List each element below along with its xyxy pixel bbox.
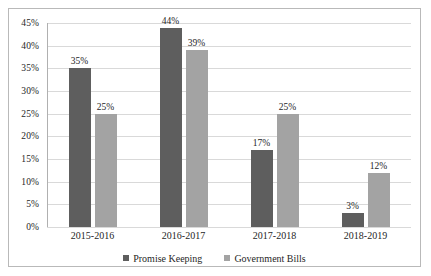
- bar-value-label: 25%: [97, 102, 114, 112]
- bar-value-label: 25%: [279, 102, 296, 112]
- y-axis-tick-label: 30%: [21, 86, 39, 96]
- bar-2017-2018-promise-keeping: 17%: [251, 150, 273, 227]
- gridline: [47, 46, 411, 47]
- y-axis-tick-label: 20%: [21, 131, 39, 141]
- chart-container: 0%5%10%15%20%25%30%35%40%45% 35%25%44%39…: [8, 8, 421, 267]
- legend-swatch-icon: [123, 255, 129, 261]
- bar-value-label: 17%: [253, 138, 270, 148]
- legend-swatch-icon: [224, 255, 230, 261]
- legend-label: Promise Keeping: [133, 253, 202, 264]
- bar-2016-2017-government-bills: 39%: [186, 50, 208, 227]
- gridline: [47, 23, 411, 24]
- x-axis-category-label: 2015-2016: [71, 230, 114, 241]
- bar-2015-2016-government-bills: 25%: [95, 114, 117, 227]
- x-axis-category-label: 2018-2019: [344, 230, 387, 241]
- y-axis-tick-label: 45%: [21, 18, 39, 28]
- bar-2018-2019-promise-keeping: 3%: [342, 213, 364, 227]
- plot-area: 35%25%44%39%17%25%3%12%: [47, 23, 411, 227]
- y-axis-tick-labels: 0%5%10%15%20%25%30%35%40%45%: [9, 23, 43, 227]
- legend-item-promise-keeping[interactable]: Promise Keeping: [123, 253, 202, 264]
- x-axis-category-labels: 2015-20162016-20172017-20182018-2019: [47, 230, 411, 246]
- y-axis-tick-label: 10%: [21, 177, 39, 187]
- bar-value-label: 39%: [188, 38, 205, 48]
- y-axis-tick-label: 0%: [26, 222, 39, 232]
- x-axis-category-label: 2016-2017: [162, 230, 205, 241]
- x-axis-category-label: 2017-2018: [253, 230, 296, 241]
- bar-2016-2017-promise-keeping: 44%: [160, 28, 182, 227]
- bar-2017-2018-government-bills: 25%: [277, 114, 299, 227]
- bar-2015-2016-promise-keeping: 35%: [69, 68, 91, 227]
- gridline: [47, 68, 411, 69]
- bar-value-label: 35%: [71, 56, 88, 66]
- bar-value-label: 12%: [370, 161, 387, 171]
- y-axis-tick-label: 35%: [21, 63, 39, 73]
- bar-value-label: 44%: [162, 16, 179, 26]
- legend-label: Government Bills: [234, 253, 305, 264]
- y-axis-tick-label: 40%: [21, 41, 39, 51]
- y-axis-tick-label: 5%: [26, 199, 39, 209]
- y-axis-line: [47, 23, 48, 227]
- bar-value-label: 3%: [346, 201, 359, 211]
- bar-2018-2019-government-bills: 12%: [368, 173, 390, 227]
- gridline: [47, 227, 411, 228]
- chart-legend: Promise KeepingGovernment Bills: [9, 250, 420, 266]
- y-axis-tick-label: 15%: [21, 154, 39, 164]
- y-axis-tick-label: 25%: [21, 109, 39, 119]
- legend-item-government-bills[interactable]: Government Bills: [224, 253, 305, 264]
- gridline: [47, 91, 411, 92]
